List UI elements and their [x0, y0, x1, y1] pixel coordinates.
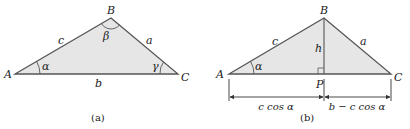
caption-a: (a) — [91, 112, 105, 123]
side-c-label: c — [58, 34, 64, 47]
vertex-a-label-b: A — [215, 68, 224, 81]
angle-alpha-label-b: α — [255, 60, 263, 73]
side-a-label-b: a — [360, 35, 367, 48]
side-b-label: b — [95, 77, 102, 90]
dimension-right-label: b − c cos α — [329, 101, 386, 112]
vertex-p-label: P — [315, 78, 324, 91]
figure-a: A B C c a b α β γ (a) — [3, 4, 190, 123]
caption-b: (b) — [300, 112, 314, 123]
angle-alpha-label: α — [42, 60, 50, 73]
side-c-label-b: c — [272, 35, 278, 48]
vertex-c-label-b: C — [394, 71, 403, 84]
figure-b: A B C P c a h α c cos α b − c cos α (b) — [215, 4, 403, 123]
side-a-label: a — [146, 34, 153, 47]
vertex-b-label: B — [106, 4, 115, 17]
triangle-abc-b — [229, 18, 391, 74]
altitude-h-label: h — [315, 42, 322, 55]
vertex-a-label: A — [3, 68, 12, 81]
angle-beta-label: β — [102, 30, 109, 43]
law-of-cosines-figure: A B C c a b α β γ (a) A B C P c a h α c … — [0, 0, 410, 129]
angle-gamma-label: γ — [152, 60, 159, 73]
vertex-c-label: C — [181, 71, 190, 84]
dimension-left-label: c cos α — [258, 101, 294, 112]
vertex-b-label-b: B — [319, 4, 328, 17]
